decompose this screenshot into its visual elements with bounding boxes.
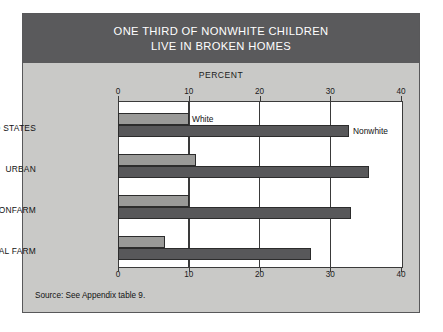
bar-nonwhite-united-states [118, 125, 349, 137]
chart-title-line-1: ONE THIRD OF NONWHITE CHILDREN [114, 24, 329, 39]
x-axis-title: PERCENT [23, 70, 419, 80]
bar-nonwhite-urban [118, 166, 369, 178]
x-tick-label-top-10: 10 [184, 87, 193, 96]
x-tick-label-top-20: 20 [255, 87, 264, 96]
bar-nonwhite-rural-farm [118, 248, 311, 260]
source-note: Source: See Appendix table 9. [35, 291, 145, 300]
x-tick-label-top-30: 30 [326, 87, 335, 96]
chart-title-line-2: LIVE IN BROKEN HOMES [151, 39, 291, 54]
series-annotation-nonwhite: Nonwhite [353, 126, 388, 136]
x-tick-label-top-40: 40 [396, 87, 405, 96]
plot-region: PERCENT 0 10 20 30 40 0 10 20 30 40 UNIT… [23, 63, 419, 314]
bar-white-rural-farm [118, 236, 165, 248]
bar-white-urban [118, 154, 196, 166]
category-label-rural-farm: RURAL FARM [0, 246, 36, 256]
chart-title-banner: ONE THIRD OF NONWHITE CHILDREN LIVE IN B… [23, 14, 419, 63]
x-tick-label-top-0: 0 [116, 87, 121, 96]
bar-white-united-states [118, 113, 189, 125]
chart-figure: ONE THIRD OF NONWHITE CHILDREN LIVE IN B… [22, 13, 420, 313]
series-annotation-white: White [192, 114, 213, 124]
bar-white-rural-nonfarm [118, 195, 189, 207]
bar-nonwhite-rural-nonfarm [118, 207, 351, 219]
category-label-united-states: UNITED STATES [0, 123, 36, 133]
category-label-urban: URBAN [5, 164, 36, 174]
category-label-rural-nonfarm: RURAL NONFARM [0, 205, 36, 215]
